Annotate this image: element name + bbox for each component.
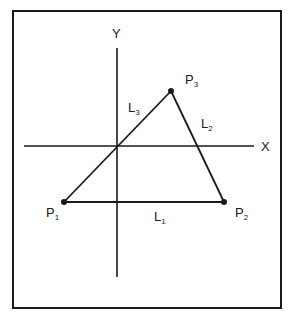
point-p3 — [168, 88, 174, 94]
line-l3-label: L3 — [128, 100, 140, 117]
y-axis-label: Y — [112, 26, 121, 41]
point-p2 — [221, 199, 227, 205]
x-axis-label: X — [261, 139, 270, 154]
point-p1-label: P1 — [46, 205, 60, 222]
line-l2-label: L2 — [201, 116, 213, 133]
diagram-frame — [13, 11, 281, 308]
point-p1 — [61, 199, 67, 205]
line-l1-label: L1 — [154, 209, 166, 226]
point-p3-label: P3 — [185, 72, 199, 89]
point-p2-label: P2 — [235, 205, 249, 222]
triangle-diagram: Y X P1 P2 P3 L1 L2 L3 — [0, 0, 289, 315]
